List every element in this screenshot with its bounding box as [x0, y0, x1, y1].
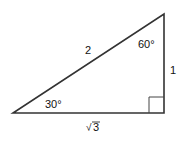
horizontal-side-label: √ 3: [86, 121, 100, 133]
triangle: [13, 14, 164, 113]
hypotenuse-label: 2: [85, 44, 91, 56]
vertical-side-label: 1: [170, 64, 176, 76]
sqrt-symbol: √: [86, 122, 92, 133]
top-angle-label: 60°: [138, 38, 155, 50]
triangle-diagram: 2 60° 1 30° √ 3: [0, 0, 181, 141]
left-angle-label: 30°: [45, 98, 62, 110]
right-angle-marker: [149, 97, 164, 113]
sqrt-radicand: 3: [93, 121, 99, 133]
